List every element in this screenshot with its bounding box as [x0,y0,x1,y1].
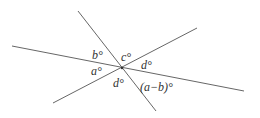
label-c: c° [121,50,131,64]
angle-diagram: b° c° a° d° d° (a−b)° [0,0,260,118]
label-d-right: d° [141,58,152,72]
line-3 [53,28,197,103]
intersection-point [121,67,123,69]
label-b: b° [92,48,103,62]
label-a: a° [91,64,102,78]
diagram-svg: b° c° a° d° d° (a−b)° [0,0,260,118]
label-a-minus-b: (a−b)° [140,80,173,94]
label-d-bottom: d° [113,76,124,90]
